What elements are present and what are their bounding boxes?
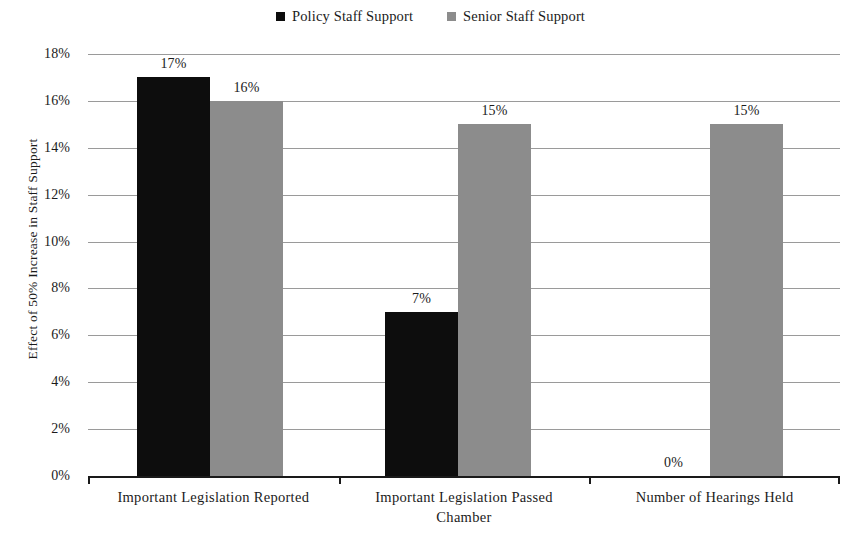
- legend-label-senior: Senior Staff Support: [463, 8, 585, 25]
- y-axis-tick-labels: 0%2%4%6%8%10%12%14%16%18%: [0, 54, 80, 476]
- bars-layer: 17%16%7%15%0%15%: [88, 54, 840, 476]
- legend-square-marker-senior: [447, 12, 456, 21]
- y-axis-tick-label: 10%: [44, 234, 70, 250]
- bar-value-label: 7%: [412, 291, 431, 307]
- bar-value-label: 15%: [734, 103, 760, 119]
- x-axis-category-label: Number of Hearings Held: [592, 487, 837, 507]
- bar-chart: Policy Staff Support Senior Staff Suppor…: [0, 0, 861, 541]
- y-axis-tick-label: 16%: [44, 93, 70, 109]
- y-axis-tick-label: 14%: [44, 140, 70, 156]
- bar-senior-1: [458, 124, 531, 476]
- y-axis-tick-label: 4%: [51, 374, 70, 390]
- bar-senior-2: [710, 124, 783, 476]
- x-axis-ticks: [88, 476, 840, 485]
- bar-value-label: 0%: [664, 455, 683, 471]
- legend-item-senior-staff-support: Senior Staff Support: [447, 8, 585, 25]
- x-axis-tick: [589, 476, 591, 484]
- x-axis-tick: [339, 476, 341, 484]
- x-axis-category-label: Important Legislation Reported: [91, 487, 336, 507]
- legend-label-policy: Policy Staff Support: [292, 8, 413, 25]
- legend-item-policy-staff-support: Policy Staff Support: [276, 8, 413, 25]
- y-axis-tick-label: 18%: [44, 46, 70, 62]
- x-axis-category-label: Important Legislation Passed Chamber: [342, 487, 587, 527]
- bar-policy-1: [385, 312, 458, 476]
- plot-area: 17%16%7%15%0%15%: [88, 54, 840, 476]
- x-axis-tick: [838, 476, 840, 484]
- y-axis-tick-label: 2%: [51, 421, 70, 437]
- bar-policy-0: [137, 77, 210, 476]
- bar-value-label: 17%: [161, 56, 187, 72]
- y-axis-tick-label: 12%: [44, 187, 70, 203]
- x-axis-tick: [88, 476, 90, 484]
- bar-senior-0: [210, 101, 283, 476]
- bar-value-label: 16%: [234, 80, 260, 96]
- y-axis-tick-label: 6%: [51, 327, 70, 343]
- bar-value-label: 15%: [482, 103, 508, 119]
- y-axis-tick-label: 0%: [51, 468, 70, 484]
- chart-legend: Policy Staff Support Senior Staff Suppor…: [0, 6, 861, 26]
- y-axis-tick-label: 8%: [51, 280, 70, 296]
- legend-square-marker-policy: [276, 12, 285, 21]
- x-axis-category-labels: Important Legislation ReportedImportant …: [88, 487, 840, 541]
